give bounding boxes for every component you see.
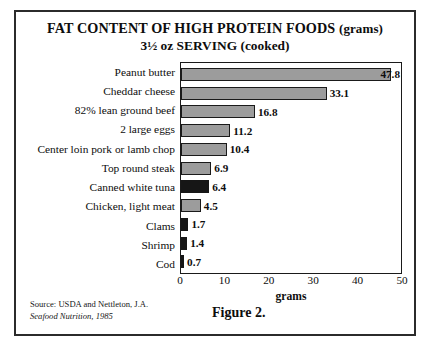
- bar: [181, 124, 230, 137]
- figure-frame: FAT CONTENT OF HIGH PROTEIN FOODS (grams…: [14, 10, 416, 336]
- x-axis-title: grams: [180, 290, 402, 303]
- chart-title-main: FAT CONTENT OF HIGH PROTEIN FOODS: [47, 20, 335, 36]
- bar-value-label: 11.2: [233, 125, 252, 137]
- bar-value-label: 4.5: [204, 200, 218, 212]
- x-tick-label: 30: [308, 274, 319, 286]
- bar-value-label: 10.4: [230, 143, 250, 155]
- category-label: Top round steak: [22, 158, 179, 177]
- bar-row: 11.2: [181, 123, 401, 138]
- title-block: FAT CONTENT OF HIGH PROTEIN FOODS (grams…: [16, 20, 414, 54]
- bar-row: 6.4: [181, 179, 401, 194]
- source-line-1: Source: USDA and Nettleton, J.A.: [30, 299, 148, 310]
- chart-title: FAT CONTENT OF HIGH PROTEIN FOODS (grams…: [16, 20, 414, 37]
- bar-row: 0.7: [181, 254, 401, 269]
- x-tick-label: 10: [219, 274, 230, 286]
- category-label: Cod: [22, 255, 179, 274]
- bar-value-label: 6.9: [214, 162, 228, 174]
- bar: [181, 143, 227, 156]
- x-tick-label: 0: [177, 274, 183, 286]
- x-tick-label: 50: [396, 274, 407, 286]
- bar-row: 47.8: [181, 67, 401, 82]
- x-axis: 01020304050 grams: [180, 274, 402, 303]
- category-label: Peanut butter: [22, 62, 179, 81]
- bar: [181, 218, 188, 231]
- bar: [181, 255, 184, 268]
- bar-value-label: 47.8: [380, 68, 400, 80]
- chart-subtitle: 3½ oz SERVING (cooked): [16, 38, 414, 54]
- bar-series: 47.833.116.811.210.46.96.44.51.71.40.7: [181, 63, 401, 273]
- bar: [181, 105, 255, 118]
- category-label: Chicken, light meat: [22, 197, 179, 216]
- bar-value-label: 0.7: [187, 256, 201, 268]
- bar-row: 16.8: [181, 104, 401, 119]
- category-label: Cheddar cheese: [22, 81, 179, 100]
- bar: [181, 199, 201, 212]
- bar-row: 4.5: [181, 198, 401, 213]
- chart-title-units: (grams): [339, 21, 383, 36]
- plot-wrapper: Peanut butterCheddar cheese82% lean grou…: [16, 60, 414, 284]
- x-tick-label: 20: [263, 274, 274, 286]
- bar-value-label: 33.1: [330, 87, 350, 99]
- bar: [181, 162, 211, 175]
- x-tick-labels: 01020304050: [180, 274, 402, 289]
- bar-row: 1.7: [181, 217, 401, 232]
- bar: [181, 180, 209, 193]
- bar: [181, 68, 391, 81]
- x-tick-label: 40: [352, 274, 363, 286]
- category-axis-labels: Peanut butterCheddar cheese82% lean grou…: [22, 62, 179, 274]
- category-label: Center loin pork or lamb chop: [22, 139, 179, 158]
- bar-value-label: 16.8: [258, 106, 278, 118]
- bar-row: 33.1: [181, 86, 401, 101]
- figure-caption: Figure 2.: [212, 305, 265, 321]
- category-label: Canned white tuna: [22, 178, 179, 197]
- bar-value-label: 1.4: [190, 237, 204, 249]
- bar: [181, 87, 327, 100]
- bar-row: 1.4: [181, 236, 401, 251]
- bar-value-label: 1.7: [191, 218, 205, 230]
- category-label: Shrimp: [22, 235, 179, 254]
- source-note: Source: USDA and Nettleton, J.A. Seafood…: [30, 299, 148, 322]
- category-label: Clams: [22, 216, 179, 235]
- category-label: 2 large eggs: [22, 120, 179, 139]
- bar-value-label: 6.4: [212, 181, 226, 193]
- bar-row: 10.4: [181, 142, 401, 157]
- bar-row: 6.9: [181, 161, 401, 176]
- source-line-2: Seafood Nutrition, 1985: [30, 311, 148, 322]
- plot-area: 47.833.116.811.210.46.96.44.51.71.40.7: [180, 62, 402, 274]
- bar: [181, 237, 187, 250]
- category-label: 82% lean ground beef: [22, 101, 179, 120]
